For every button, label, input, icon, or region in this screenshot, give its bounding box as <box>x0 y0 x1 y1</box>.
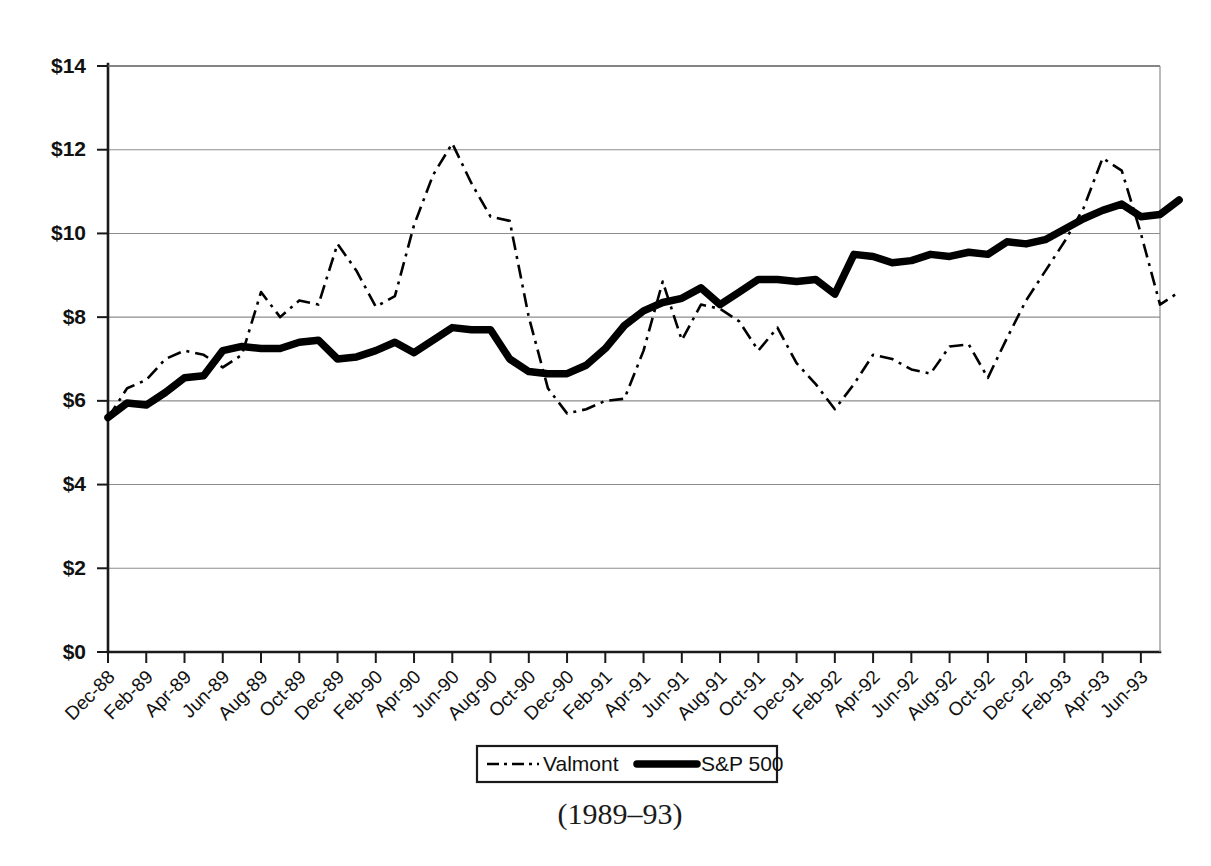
y-tick-label: $14 <box>51 54 86 77</box>
line-chart: $0$2$4$6$8$10$12$14 Dec-88Feb-89Apr-89Ju… <box>0 0 1211 866</box>
legend-label-sp500: S&P 500 <box>701 752 784 775</box>
y-tick-label: $6 <box>63 388 86 411</box>
series-line-valmont <box>108 143 1179 417</box>
legend-label-valmont: Valmont <box>543 752 619 775</box>
x-axis-tick-labels: Dec-88Feb-89Apr-89Jun-89Aug-89Oct-89Dec-… <box>61 666 1152 724</box>
figure-caption: (1989–93) <box>558 797 683 831</box>
y-axis-tick-labels: $0$2$4$6$8$10$12$14 <box>51 54 86 663</box>
y-tick-label: $4 <box>63 472 87 495</box>
y-tick-marks-group <box>97 66 108 652</box>
y-tick-label: $2 <box>63 556 86 579</box>
y-tick-label: $8 <box>63 305 87 328</box>
stock-performance-figure: $0$2$4$6$8$10$12$14 Dec-88Feb-89Apr-89Ju… <box>0 0 1211 866</box>
chart-legend: Valmont S&P 500 <box>477 746 784 782</box>
x-tick-marks-group <box>108 652 1141 663</box>
y-tick-label: $12 <box>51 137 86 160</box>
series-line-sp500 <box>108 200 1179 418</box>
y-tick-label: $10 <box>51 221 86 244</box>
y-tick-label: $0 <box>63 640 86 663</box>
